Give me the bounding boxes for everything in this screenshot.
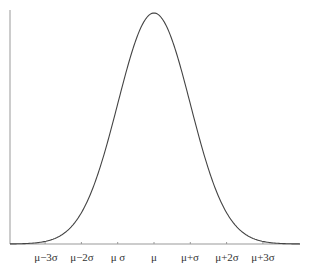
tick-label-minus-2-sigma: μ−2σ bbox=[70, 251, 94, 263]
tick-label-plus-3-sigma: μ+3σ bbox=[251, 251, 275, 263]
normal-distribution-chart: μ−3σ μ−2σ μ σ μ μ+σ μ+2σ μ+3σ bbox=[0, 0, 309, 272]
x-tick-labels: μ−3σ μ−2σ μ σ μ μ+σ μ+2σ μ+3σ bbox=[34, 251, 275, 263]
bell-curve bbox=[10, 13, 300, 244]
tick-label-mu: μ bbox=[151, 251, 157, 263]
tick-label-minus-3-sigma: μ−3σ bbox=[34, 251, 58, 263]
tick-label-plus-1-sigma: μ+σ bbox=[181, 251, 199, 263]
tick-label-minus-1-sigma: μ σ bbox=[111, 251, 126, 263]
tick-label-plus-2-sigma: μ+2σ bbox=[215, 251, 239, 263]
